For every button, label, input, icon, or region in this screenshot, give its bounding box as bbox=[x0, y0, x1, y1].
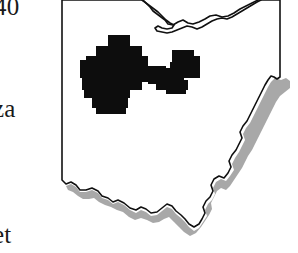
shaded-grid-cell bbox=[96, 46, 142, 56]
margin-label-top: 40 bbox=[0, 0, 19, 19]
ohio-state-map bbox=[0, 0, 298, 253]
margin-label-middle: za bbox=[0, 96, 16, 121]
margin-label-bottom: et bbox=[0, 222, 11, 247]
shaded-grid-cell bbox=[96, 104, 126, 114]
shaded-grid-cell bbox=[108, 35, 130, 46]
ohio-map-figure: 40 za et bbox=[0, 0, 298, 253]
shaded-grid-cell bbox=[166, 86, 186, 94]
shaded-grid-cell bbox=[178, 56, 200, 68]
